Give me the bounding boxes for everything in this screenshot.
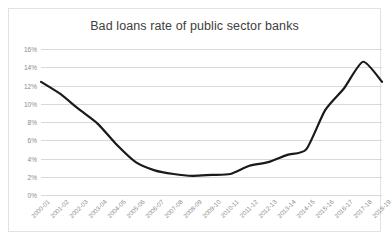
y-axis-tick-label: 10%	[24, 100, 37, 107]
chart-title: Bad loans rate of public sector banks	[9, 19, 380, 33]
x-axis-tick-label: 2012-13	[257, 198, 278, 219]
x-axis-tick-label: 2006-07	[143, 198, 164, 219]
x-axis-tick-label: 2004-05	[105, 198, 126, 219]
x-axis-tick-label: 2017-18	[352, 198, 373, 219]
y-axis-tick-label: 4%	[28, 155, 37, 162]
y-axis-tick-label: 0%	[28, 192, 37, 199]
x-axis-tick-label: 2015-16	[314, 198, 335, 219]
x-axis-tick-labels: 2000-012001-022002-032003-042004-052005-…	[41, 195, 382, 240]
line-series-group	[41, 49, 382, 195]
x-axis-tick-label: 2014-15	[295, 198, 316, 219]
y-axis-tick-label: 14%	[24, 64, 37, 71]
x-axis-tick-label: 2002-03	[68, 198, 89, 219]
y-axis-tick-label: 12%	[24, 82, 37, 89]
x-axis-tick-label: 2003-04	[86, 198, 107, 219]
chart-container: Bad loans rate of public sector banks 0%…	[8, 8, 381, 232]
y-axis-tick-label: 2%	[28, 173, 37, 180]
x-axis-tick-label: 2009-10	[200, 198, 221, 219]
x-axis-tick-label: 2013-14	[276, 198, 297, 219]
x-axis-tick-label: 2007-08	[162, 198, 183, 219]
x-axis-tick-label: 2005-06	[124, 198, 145, 219]
line-series-bad-loans-rate	[41, 62, 382, 176]
y-axis-tick-label: 6%	[28, 137, 37, 144]
x-axis-tick-label: 2010-11	[219, 198, 240, 219]
x-axis-tick-label: 2000-01	[30, 198, 51, 219]
y-axis-tick-label: 16%	[24, 46, 37, 53]
x-axis-tick-label: 2018-19	[371, 198, 392, 219]
plot-area: 0%2%4%6%8%10%12%14%16%	[41, 49, 382, 195]
x-axis-tick-label: 2011-12	[238, 198, 259, 219]
x-axis-tick-label: 2016-17	[333, 198, 354, 219]
x-axis-tick-label: 2008-09	[181, 198, 202, 219]
x-axis-tick-label: 2001-02	[49, 198, 70, 219]
y-axis-tick-label: 8%	[28, 119, 37, 126]
